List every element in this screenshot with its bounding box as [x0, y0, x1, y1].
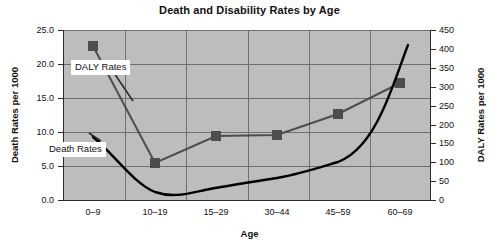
gridline-horizontal-5 [64, 166, 430, 167]
annotation-daly-rates: DALY Rates [71, 60, 130, 75]
y-tick-left-5 [58, 30, 63, 31]
y-axis-right-label-9: 450 [439, 25, 454, 35]
y-tick-left-3 [58, 98, 63, 99]
y-tick-left-4 [58, 64, 63, 65]
gridline-vertical-1 [125, 30, 126, 200]
y-axis-left-label-0: 0.0 [0, 195, 54, 205]
y-tick-right-8 [431, 49, 436, 50]
x-axis-label-3: 30–44 [264, 207, 289, 217]
y-axis-left-label-5: 25.0 [0, 25, 54, 35]
x-axis-label-4: 45–59 [325, 207, 350, 217]
y-axis-right-label-5: 250 [439, 101, 454, 111]
y-axis-right-label-3: 150 [439, 138, 454, 148]
y-axis-right-label-1: 50 [439, 176, 449, 186]
gridline-horizontal-10 [64, 132, 430, 133]
y-axis-left-spine [63, 30, 64, 201]
gridline-vertical-3 [248, 30, 249, 200]
y-axis-right-label-8: 400 [439, 44, 454, 54]
plot-area [63, 30, 430, 200]
y-tick-right-6 [431, 87, 436, 88]
x-axis-title: Age [0, 228, 499, 239]
y-tick-right-0 [431, 200, 436, 201]
chart-container: Death and Disability Rates by Age 0.0 5.… [0, 0, 499, 248]
plot-frame-bottom [63, 200, 431, 201]
x-axis-label-2: 15–29 [203, 207, 228, 217]
gridline-vertical-5 [370, 30, 371, 200]
y-axis-right-label-4: 200 [439, 120, 454, 130]
y-axis-right-title: DALY Rates per 1000 [475, 35, 486, 195]
y-axis-right-spine [430, 30, 431, 201]
x-axis-label-5: 60–69 [387, 207, 412, 217]
y-tick-right-9 [431, 30, 436, 31]
gridline-horizontal-15 [64, 98, 430, 99]
x-axis-label-1: 10–19 [142, 207, 167, 217]
y-axis-right-label-2: 100 [439, 157, 454, 167]
y-tick-right-2 [431, 162, 436, 163]
y-tick-right-5 [431, 106, 436, 107]
x-axis-label-0: 0–9 [85, 207, 100, 217]
y-tick-right-4 [431, 125, 436, 126]
annotation-death-rates: Death Rates [45, 142, 106, 157]
y-tick-right-7 [431, 68, 436, 69]
y-tick-left-2 [58, 132, 63, 133]
gridline-vertical-2 [186, 30, 187, 200]
chart-title: Death and Disability Rates by Age [0, 4, 499, 16]
y-axis-right-label-7: 350 [439, 63, 454, 73]
y-tick-left-1 [58, 166, 63, 167]
y-axis-right-label-6: 300 [439, 82, 454, 92]
y-axis-left-title: Death Rates per 1000 [9, 35, 20, 195]
plot-frame-top [63, 30, 430, 31]
y-tick-right-1 [431, 181, 436, 182]
y-tick-left-0 [58, 200, 63, 201]
y-tick-right-3 [431, 143, 436, 144]
gridline-vertical-4 [309, 30, 310, 200]
y-axis-right-label-0: 0 [439, 195, 444, 205]
